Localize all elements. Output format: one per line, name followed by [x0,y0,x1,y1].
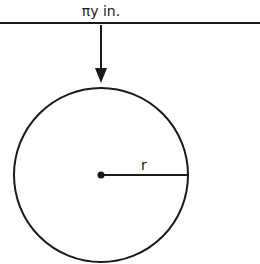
circle-diagram: πy in. r [0,0,260,264]
radius-label: r [141,157,147,173]
arrow-head-icon [95,68,107,83]
top-length-label: πy in. [82,3,120,19]
